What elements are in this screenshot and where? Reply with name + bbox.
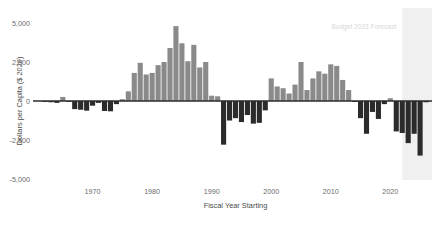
x-axis-ticks: 197019801990200020102020 [85,187,399,196]
bar [227,101,232,121]
y-axis-title: Dollars per Capita ($ 2020) [15,57,24,146]
bar [102,101,107,111]
x-tick-label: 2010 [323,187,339,196]
bar [72,101,77,109]
x-tick-label: 2000 [263,187,279,196]
x-tick-label: 2020 [382,187,398,196]
bar [370,101,375,112]
bar [245,101,250,115]
bar [346,90,351,101]
x-tick-label: 1970 [85,187,101,196]
bar [304,90,309,101]
bar [197,67,202,101]
bar [150,73,155,101]
bar [209,96,214,101]
bar [215,96,220,101]
y-tick-label: 0 [26,97,30,106]
bar-chart: 5,0002,5000-2,500-5,00019701980199020002… [0,0,439,227]
bar [203,62,208,101]
bar [418,101,423,156]
y-tick-label: -5,000 [10,175,30,184]
bar [310,78,315,101]
bar [221,101,226,145]
bar [376,101,381,119]
bar [138,63,143,101]
bar [126,91,131,101]
bar [400,101,405,133]
bar [132,73,137,101]
bar [233,101,238,118]
bar [161,62,166,101]
bar [281,88,286,101]
bar [269,78,274,101]
forecast-annotation-label: Budget 2023 Forecast [331,23,396,31]
bar [394,101,399,131]
bar [144,74,149,101]
bar [406,101,411,143]
bar [298,62,303,101]
bar [90,101,95,106]
chart-container: 5,0002,5000-2,500-5,00019701980199020002… [0,0,439,227]
bar [239,101,244,122]
bar [340,80,345,101]
x-tick-label: 1980 [144,187,160,196]
bar [322,74,327,101]
forecast-shaded-region [402,8,432,180]
bar [173,26,178,101]
bar [185,61,190,101]
x-tick-label: 1990 [204,187,220,196]
bar [179,43,184,101]
bar [358,101,363,118]
bar [263,101,268,110]
bar [412,101,417,134]
bar [251,101,256,124]
bar [334,66,339,101]
bar [316,71,321,101]
bar [364,101,369,134]
bar [292,85,297,101]
bar-series [42,26,428,155]
bar [257,101,262,123]
bar [167,48,172,101]
x-axis-title: Fiscal Year Starting [204,201,268,210]
bar [275,86,280,101]
bar [78,101,83,110]
bar [328,64,333,101]
bar [191,45,196,101]
bar [287,94,292,101]
y-tick-label: 5,000 [12,19,30,28]
bar [84,101,89,111]
bar [108,101,113,111]
bar [156,65,161,101]
